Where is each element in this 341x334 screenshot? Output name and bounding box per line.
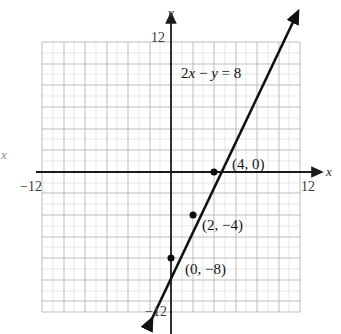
coordinate-plane-svg [0,0,341,334]
tick-x-max: 12 [301,180,315,194]
x-axis-label-left: x [1,148,7,161]
point-0-neg8 [168,255,175,262]
tick-y-max: 12 [151,31,165,45]
tick-y-min: −12 [145,305,167,319]
tick-x-min: −12 [20,180,42,194]
x-axis-label-right: x [326,165,332,178]
point-label-2-neg4: (2, −4) [202,218,243,233]
y-axis-label: y [168,6,174,19]
point-label-4-0: (4, 0) [232,157,265,172]
equation-text: 2x − y = 8 [181,65,241,81]
graph-figure: 2x − y = 8 y x x 12 −12 12 −12 (4, 0) (2… [0,0,341,334]
point-label-0-neg8: (0, −8) [185,262,226,277]
point-2-neg4 [190,212,197,219]
equation-label: 2x − y = 8 [181,66,241,81]
point-4-0 [211,169,218,176]
